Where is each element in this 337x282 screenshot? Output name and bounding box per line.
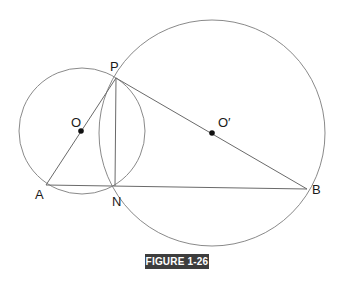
center-dot-O-prime <box>209 130 215 136</box>
label-A: A <box>35 188 44 201</box>
label-P: P <box>110 60 119 73</box>
label-O-prime: O′ <box>218 116 231 129</box>
label-O: O <box>71 116 81 129</box>
label-B: B <box>312 183 321 196</box>
segment-AB <box>46 185 307 189</box>
geometry-figure <box>0 0 337 282</box>
segment-PN <box>115 78 116 186</box>
figure-caption: FIGURE 1-26 <box>145 254 209 269</box>
label-N: N <box>112 195 121 208</box>
